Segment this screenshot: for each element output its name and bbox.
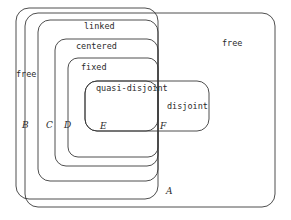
region-label-disjoint: disjoint: [167, 101, 208, 111]
region-label-linked: linked: [84, 21, 115, 31]
set-letter-E: E: [100, 121, 107, 131]
region-label-fixed: fixed: [81, 62, 107, 72]
set-diagram-svg: [0, 0, 291, 220]
diagram-canvas: free linked centered fixed quasi-disjoin…: [0, 0, 291, 220]
region-label-quasi-disjoint: quasi-disjoint: [96, 83, 168, 93]
region-label-free-outer: free: [222, 38, 242, 48]
set-letter-D: D: [64, 120, 71, 130]
region-label-centered: centered: [76, 41, 117, 51]
region-label-free-inner: free: [16, 69, 36, 79]
set-letter-B: B: [22, 120, 29, 130]
region-fixed-D: [68, 58, 158, 157]
set-letter-A: A: [166, 186, 173, 196]
region-free-inner-A: [16, 8, 158, 199]
set-letter-C: C: [46, 120, 53, 130]
set-letter-F: F: [160, 121, 166, 131]
